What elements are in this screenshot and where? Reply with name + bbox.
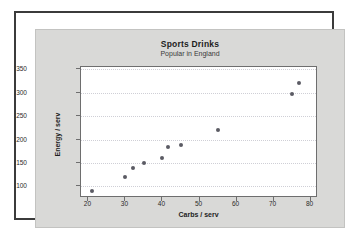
data-point <box>216 128 220 132</box>
x-tick-label: 20 <box>72 200 102 207</box>
x-tick-label: 80 <box>295 200 325 207</box>
y-tick-label: 200 <box>0 135 27 142</box>
x-tick-mark <box>124 197 125 201</box>
y-axis-label: Energy / serv <box>54 80 61 190</box>
data-point <box>123 175 127 179</box>
gridline-y <box>81 93 316 94</box>
x-tick-mark <box>87 197 88 201</box>
y-tick-label: 350 <box>0 65 27 72</box>
x-tick-mark <box>310 197 311 201</box>
data-point <box>290 92 294 96</box>
chart-subtitle: Popular in England <box>35 50 345 57</box>
x-tick-label: 50 <box>184 200 214 207</box>
data-point <box>142 161 146 165</box>
y-tick-label: 150 <box>0 158 27 165</box>
gridline-y <box>81 69 316 70</box>
data-point <box>166 145 170 149</box>
x-tick-mark <box>236 197 237 201</box>
data-point <box>160 156 164 160</box>
y-tick-label: 250 <box>0 112 27 119</box>
data-point <box>90 189 94 193</box>
gridline-y <box>81 140 316 141</box>
gridline-y <box>81 186 316 187</box>
gridline-y <box>81 163 316 164</box>
x-axis-label: Carbs / serv <box>80 211 317 218</box>
y-tick-label: 100 <box>0 182 27 189</box>
x-tick-mark <box>199 197 200 201</box>
x-tick-label: 70 <box>258 200 288 207</box>
plot-area <box>80 66 317 197</box>
data-point <box>297 81 301 85</box>
chart-figure: Sports Drinks Popular in England Energy … <box>0 0 352 235</box>
plot-inner <box>81 67 316 196</box>
data-point <box>131 166 135 170</box>
x-tick-label: 60 <box>221 200 251 207</box>
gridline-y <box>81 116 316 117</box>
chart-outer-frame: Sports Drinks Popular in England Energy … <box>14 11 334 220</box>
y-tick-label: 300 <box>0 88 27 95</box>
x-tick-label: 40 <box>146 200 176 207</box>
x-tick-label: 30 <box>109 200 139 207</box>
x-tick-mark <box>161 197 162 201</box>
chart-title: Sports Drinks <box>35 39 345 49</box>
data-point <box>179 143 183 147</box>
x-tick-mark <box>273 197 274 201</box>
